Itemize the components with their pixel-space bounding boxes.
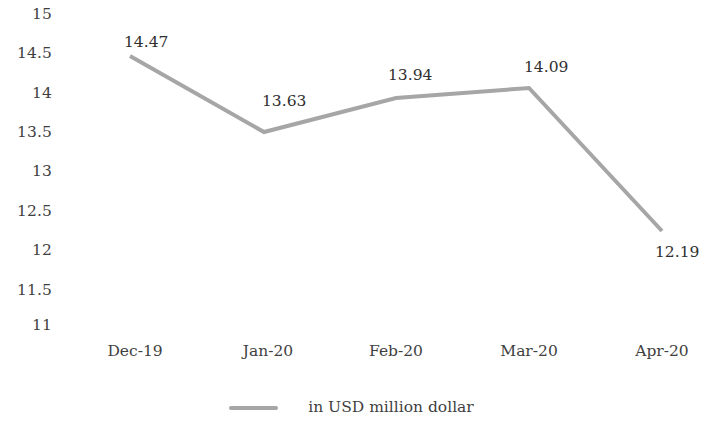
data-point-label: 13.94 — [388, 68, 432, 84]
x-axis-tick: Feb-20 — [369, 344, 423, 360]
data-point-label: 13.63 — [262, 94, 306, 110]
data-point-label: 14.09 — [524, 60, 568, 76]
legend-label: in USD million dollar — [308, 400, 474, 416]
x-axis-tick: Dec-19 — [107, 344, 162, 360]
line-chart: 15 14.5 14 13.5 13 12.5 12 11.5 11 14.47… — [0, 0, 703, 424]
data-point-label: 12.19 — [655, 245, 699, 261]
x-axis-tick: Mar-20 — [500, 344, 557, 360]
x-axis-tick: Apr-20 — [635, 344, 689, 360]
data-point-label: 14.47 — [124, 35, 168, 51]
chart-legend: in USD million dollar — [0, 396, 703, 420]
x-axis: Dec-19 Jan-20 Feb-20 Mar-20 Apr-20 — [0, 344, 703, 368]
x-axis-tick: Jan-20 — [243, 344, 293, 360]
legend-line-marker-icon — [229, 406, 278, 410]
